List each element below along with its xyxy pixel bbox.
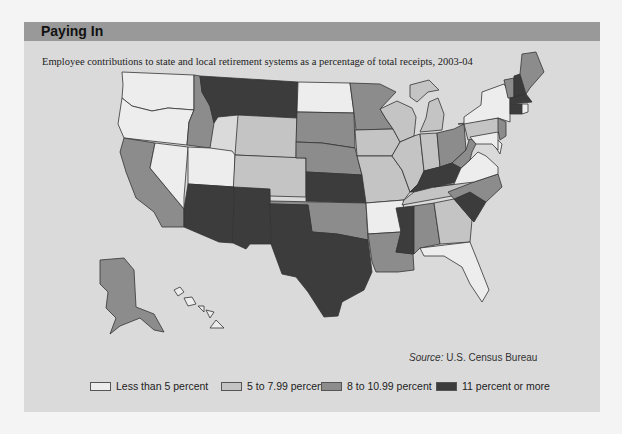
state-ct [510, 104, 522, 114]
legend-label: 11 percent or more [462, 380, 550, 392]
legend-item-11plus: 11 percent or more [436, 380, 550, 392]
state-ia [355, 129, 400, 156]
state-wy [235, 115, 297, 158]
legend-label: Less than 5 percent [116, 380, 208, 392]
state-az [184, 184, 234, 243]
state-hi [174, 287, 224, 328]
legend-item-8to11: 8 to 10.99 percent [321, 380, 432, 392]
source-note: Source: U.S. Census Bureau [409, 352, 537, 363]
legend-label: 8 to 10.99 percent [347, 380, 432, 392]
state-ri [522, 104, 528, 114]
state-wa [122, 72, 194, 111]
state-nm [233, 187, 271, 249]
state-in [420, 133, 440, 171]
legend-swatch-11plus [436, 382, 457, 391]
legend-swatch-5to8 [221, 382, 242, 391]
legend-swatch-8to11 [321, 382, 342, 391]
state-nd [297, 82, 354, 113]
state-ut [188, 147, 235, 187]
legend-swatch-lt5 [90, 382, 111, 391]
legend-item-lt5: Less than 5 percent [90, 380, 208, 392]
legend: Less than 5 percent 5 to 7.99 percent 8 … [24, 380, 600, 396]
state-ks [306, 172, 366, 203]
chart-panel: Paying In Employee contributions to stat… [24, 22, 600, 412]
state-fl [420, 242, 489, 302]
legend-label: 5 to 7.99 percent [247, 380, 326, 392]
legend-item-5to8: 5 to 7.99 percent [221, 380, 326, 392]
state-ak [100, 258, 164, 334]
state-nj [498, 118, 506, 140]
state-ny [464, 84, 510, 124]
